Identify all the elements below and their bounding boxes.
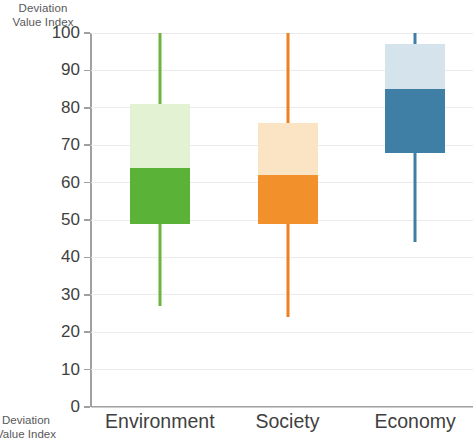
y-tick-mark-100: [84, 32, 90, 34]
upper-quartile-box-environment: [130, 104, 190, 168]
y-tick-mark-60: [84, 182, 90, 184]
y-tick-mark-70: [84, 144, 90, 146]
y-tick-mark-20: [84, 331, 90, 333]
y-tick-label-90: 90: [20, 61, 80, 78]
lower-quartile-box-economy: [385, 89, 445, 153]
y-tick-label-100: 100: [20, 24, 80, 41]
upper-quartile-box-economy: [385, 44, 445, 89]
x-label-economy: Economy: [351, 410, 473, 432]
y-tick-mark-10: [84, 369, 90, 371]
x-label-environment: Environment: [96, 410, 224, 432]
y-tick-label-40: 40: [20, 248, 80, 265]
box-plot-economy: [385, 33, 445, 407]
box-plot-chart: Deviation Value Index 100908070605040302…: [0, 0, 473, 441]
clipped-axis-title-line1: Deviation: [0, 414, 86, 428]
y-tick-label-80: 80: [20, 99, 80, 116]
y-tick-label-20: 20: [20, 323, 80, 340]
y-tick-mark-30: [84, 294, 90, 296]
y-tick-mark-0: [84, 406, 90, 408]
lower-quartile-box-society: [258, 175, 318, 224]
upper-quartile-box-society: [258, 123, 318, 175]
clipped-axis-title-line2: Value Index: [0, 428, 86, 441]
y-tick-mark-90: [84, 70, 90, 72]
plot-area: 1009080706050403020100: [90, 33, 473, 407]
y-tick-mark-50: [84, 219, 90, 221]
box-plot-environment: [130, 33, 190, 407]
y-tick-label-30: 30: [20, 286, 80, 303]
y-tick-mark-40: [84, 257, 90, 259]
y-tick-label-70: 70: [20, 136, 80, 153]
y-tick-label-60: 60: [20, 174, 80, 191]
lower-quartile-box-environment: [130, 168, 190, 224]
y-tick-label-10: 10: [20, 361, 80, 378]
y-tick-label-0: 0: [20, 398, 80, 415]
box-plot-society: [258, 33, 318, 407]
clipped-axis-title-artifact: Deviation Value Index: [0, 414, 86, 441]
y-tick-label-50: 50: [20, 211, 80, 228]
y-tick-mark-80: [84, 107, 90, 109]
x-label-society: Society: [224, 410, 352, 432]
y-axis-title-line1: Deviation: [0, 2, 86, 16]
